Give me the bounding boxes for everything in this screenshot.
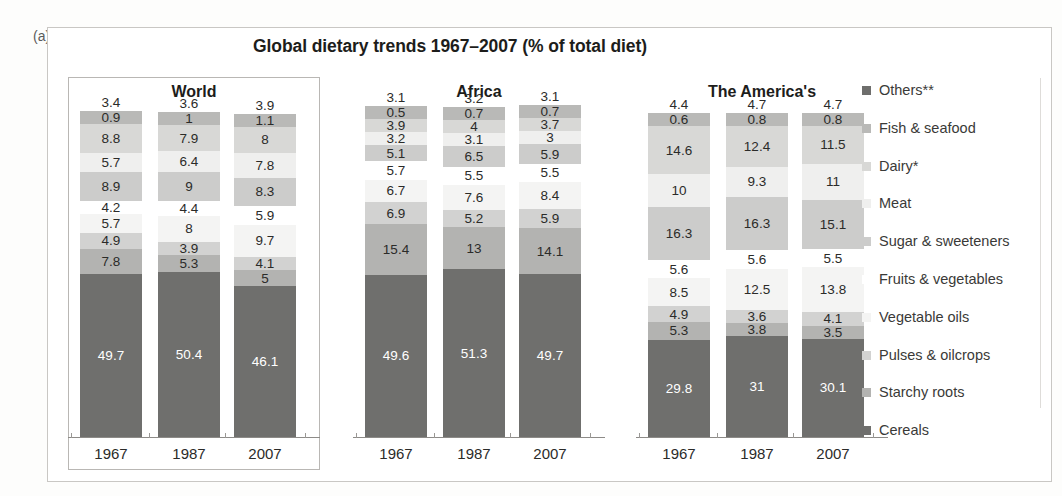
stacked-bar: 3.91.187.88.35.99.74.1546.1 bbox=[234, 114, 296, 437]
bar-segment: 9.7 bbox=[234, 225, 296, 257]
segment-value: 0.5 bbox=[387, 106, 406, 119]
bar-column: 3.20.743.16.55.57.65.21351.3 bbox=[443, 107, 505, 437]
segment-value: 12.5 bbox=[744, 283, 770, 296]
bar-segment: 30.1 bbox=[802, 339, 864, 437]
legend-swatch-icon bbox=[862, 86, 871, 95]
segment-value: 4.9 bbox=[670, 308, 689, 321]
legend-label: Meat bbox=[879, 195, 911, 211]
bar-segment: 7.8 bbox=[80, 249, 142, 275]
segment-value: 51.3 bbox=[461, 347, 487, 360]
stacked-bar: 3.20.743.16.55.57.65.21351.3 bbox=[443, 107, 505, 437]
bar-segment: 5.5 bbox=[519, 164, 581, 182]
segment-value-others: 4.7 bbox=[802, 98, 864, 112]
bar-segment: 3 bbox=[519, 131, 581, 144]
segment-value: 6.9 bbox=[387, 207, 406, 220]
bar-group-africa: Africa3.10.53.93.25.15.76.76.915.449.63.… bbox=[353, 77, 605, 470]
segment-value: 4.1 bbox=[256, 257, 275, 270]
bar-segment: 6.7 bbox=[365, 180, 427, 202]
segment-value: 13.8 bbox=[820, 283, 846, 296]
bar-segment: 8.4 bbox=[519, 182, 581, 209]
segment-value: 14.1 bbox=[537, 245, 563, 258]
category-axis-line bbox=[636, 437, 888, 438]
bar-segment: 1.1 bbox=[234, 114, 296, 127]
bar-segment: 15.1 bbox=[802, 200, 864, 249]
legend-label: Sugar & sweeteners bbox=[879, 233, 1010, 249]
bar-column: 4.70.812.49.316.35.612.53.63.831 bbox=[726, 113, 788, 437]
axis-tick bbox=[639, 433, 640, 438]
bar-segment: 10 bbox=[648, 174, 710, 207]
legend-label: Fish & seafood bbox=[879, 120, 976, 136]
bar-segment: 4.9 bbox=[648, 306, 710, 322]
legend-item-meat[interactable]: Meat bbox=[862, 195, 1048, 233]
segment-value: 8.9 bbox=[102, 180, 121, 193]
bar-segment: 51.3 bbox=[443, 269, 505, 437]
segment-value: 5.7 bbox=[102, 217, 121, 230]
segment-value: 50.4 bbox=[176, 348, 202, 361]
legend-label: Fruits & vegetables bbox=[879, 271, 1003, 287]
segment-value: 29.8 bbox=[666, 382, 692, 395]
bar-segment: 50.4 bbox=[158, 272, 220, 437]
segment-value: 5.9 bbox=[256, 209, 275, 222]
legend-item-fruits-vegetables[interactable]: Fruits & vegetables bbox=[862, 271, 1048, 309]
bar-segment: 8 bbox=[158, 216, 220, 242]
bar-segment: 5.6 bbox=[726, 250, 788, 268]
segment-value-others: 3.4 bbox=[80, 96, 142, 110]
segment-value: 30.1 bbox=[820, 381, 846, 394]
legend-item-pulses-oilcrops[interactable]: Pulses & oilcrops bbox=[862, 347, 1048, 385]
bar-segment: 11.5 bbox=[802, 126, 864, 164]
segment-value: 8.4 bbox=[541, 189, 560, 202]
category-axis-line bbox=[353, 437, 605, 438]
bar-segment: 8.8 bbox=[80, 124, 142, 153]
bar-segment: 0.7 bbox=[443, 107, 505, 120]
bar-segment: 12.4 bbox=[726, 126, 788, 167]
bar-segment: 3.1 bbox=[443, 133, 505, 146]
segment-value-others: 3.1 bbox=[519, 90, 581, 104]
bar-segment: 5.3 bbox=[158, 255, 220, 272]
segment-value: 5 bbox=[261, 272, 269, 285]
segment-value: 5.5 bbox=[465, 169, 484, 182]
bar-segment: 5.9 bbox=[519, 144, 581, 163]
bar-segment: 0.9 bbox=[80, 111, 142, 124]
segment-value: 5.3 bbox=[670, 324, 689, 337]
bar-segment: 4.9 bbox=[80, 233, 142, 249]
legend-item-cereals[interactable]: Cereals bbox=[862, 422, 1048, 460]
segment-value: 12.4 bbox=[744, 140, 770, 153]
bar-segment: 5.7 bbox=[80, 153, 142, 172]
segment-value: 5.6 bbox=[670, 263, 689, 276]
stacked-bar: 3.10.53.93.25.15.76.76.915.449.6 bbox=[365, 106, 427, 437]
bar-segment: 5.5 bbox=[443, 167, 505, 185]
year-label: 1967 bbox=[80, 445, 142, 462]
year-label: 2007 bbox=[234, 445, 296, 462]
bar-segment: 31 bbox=[726, 336, 788, 437]
segment-value: 1 bbox=[185, 112, 193, 125]
bar-segment: 5.7 bbox=[80, 214, 142, 233]
legend-item-others[interactable]: Others** bbox=[862, 82, 1048, 120]
bar-segment: 13.8 bbox=[802, 267, 864, 312]
legend-item-starchy-roots[interactable]: Starchy roots bbox=[862, 384, 1048, 422]
bar-segment: 49.7 bbox=[519, 274, 581, 437]
legend-swatch-icon bbox=[862, 351, 871, 360]
bar-segment: 0.8 bbox=[726, 113, 788, 126]
year-label: 1987 bbox=[443, 445, 505, 462]
segment-value: 0.6 bbox=[670, 113, 689, 126]
bar-segment: 5 bbox=[234, 270, 296, 286]
legend-item-sugar-sweeteners[interactable]: Sugar & sweeteners bbox=[862, 233, 1048, 271]
segment-value: 8.3 bbox=[256, 185, 275, 198]
legend-item-vegetable-oils[interactable]: Vegetable oils bbox=[862, 309, 1048, 347]
segment-value: 7.9 bbox=[180, 132, 199, 145]
bar-segment: 1 bbox=[158, 112, 220, 125]
segment-value: 15.1 bbox=[820, 218, 846, 231]
bar-column: 3.40.98.85.78.94.25.74.97.849.7 bbox=[80, 111, 142, 437]
bar-segment: 16.3 bbox=[648, 207, 710, 260]
axis-tick bbox=[434, 433, 435, 438]
bar-column: 4.70.811.51115.15.513.84.13.530.1 bbox=[802, 113, 864, 437]
bar-segment: 5.5 bbox=[802, 249, 864, 267]
legend-item-fish-seafood[interactable]: Fish & seafood bbox=[862, 120, 1048, 158]
bar-segment: 3.2 bbox=[365, 132, 427, 145]
segment-value: 5.3 bbox=[180, 257, 199, 270]
segment-value: 49.6 bbox=[383, 349, 409, 362]
legend-item-dairy[interactable]: Dairy* bbox=[862, 158, 1048, 196]
bar-segment: 8.9 bbox=[80, 172, 142, 201]
bar-segment: 46.1 bbox=[234, 286, 296, 437]
segment-value: 8 bbox=[261, 133, 269, 146]
